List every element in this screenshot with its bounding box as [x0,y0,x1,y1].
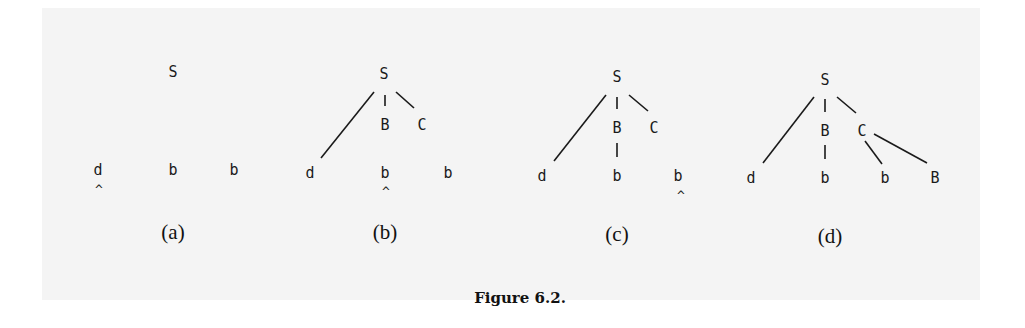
edge-S-C [396,92,414,108]
node-S: S [168,63,177,81]
node-C: C [649,119,658,137]
node-S: S [612,68,621,86]
leaf-d: d [93,161,102,179]
leaf-d: d [305,164,314,182]
leaf-b: b [880,169,889,187]
leaf-b: b [612,167,621,185]
edge-S-d [554,95,606,161]
edge-S-C [837,97,856,113]
leaf-d: d [746,169,755,187]
figure-caption: Figure 6.2. [0,289,1025,307]
panel-label: (a) [161,220,184,244]
input-pointer-caret: ^ [382,184,390,199]
edge-C-B [874,134,927,163]
node-C: C [417,116,426,134]
node-B: B [612,119,621,137]
node-B: B [820,122,829,140]
leaf-b: b [168,161,177,179]
panel-b: S B C d b b ^ (b) [305,65,452,244]
parse-tree-figure: S d b b ^ (a) S B C d b b ^ (b) S B C d … [0,0,1025,328]
input-pointer-caret: ^ [95,182,103,197]
leaf-b: b [673,167,682,185]
input-pointer-caret: ^ [677,188,685,203]
leaf-b: b [229,161,238,179]
leaf-d: d [537,167,546,185]
node-B: B [380,116,389,134]
leaf-B: B [930,169,939,187]
leaf-b: b [443,164,452,182]
panel-label: (c) [605,222,628,246]
leaf-b: b [820,169,829,187]
edge-S-d [763,97,814,163]
edge-S-d [321,92,374,158]
node-S: S [379,65,388,83]
panel-c: S B C d b b ^ (c) [537,68,685,246]
panel-d: S B C d b b B (d) [746,71,939,248]
panel-label: (d) [818,224,843,248]
edge-C-b [865,141,882,164]
node-C: C [857,122,866,140]
panel-label: (b) [373,220,398,244]
panel-a: S d b b ^ (a) [93,63,238,244]
node-S: S [820,71,829,89]
edge-S-C [629,95,648,111]
leaf-b: b [380,164,389,182]
